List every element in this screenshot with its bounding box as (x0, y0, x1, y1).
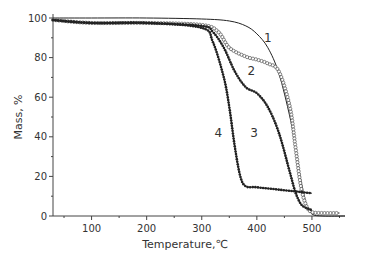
marker (290, 190, 293, 193)
marker (295, 194, 298, 197)
marker (135, 21, 138, 24)
marker (246, 87, 249, 90)
marker (293, 187, 296, 190)
marker (209, 28, 212, 31)
marker (272, 188, 275, 191)
marker (236, 160, 239, 163)
marker (240, 178, 243, 181)
marker (227, 56, 230, 59)
marker (264, 187, 267, 190)
marker (234, 70, 237, 73)
marker (228, 59, 231, 62)
marker (80, 21, 83, 24)
curve-label-1: 1 (264, 31, 272, 45)
marker (231, 127, 234, 130)
marker (187, 24, 190, 27)
x-axis-label: Temperature,℃ (141, 238, 228, 251)
marker (230, 63, 233, 66)
marker (268, 108, 271, 111)
marker (253, 90, 256, 93)
marker (288, 169, 291, 172)
marker (88, 22, 91, 25)
marker (242, 83, 245, 86)
marker (249, 186, 252, 189)
marker (255, 92, 258, 95)
curve-label-3: 3 (250, 126, 258, 140)
marker (222, 73, 225, 76)
marker (280, 139, 283, 142)
marker (169, 23, 172, 26)
marker (257, 93, 260, 96)
marker (254, 186, 257, 189)
marker (179, 24, 182, 27)
marker (226, 96, 229, 99)
marker (117, 22, 120, 25)
marker (132, 21, 135, 24)
marker (277, 129, 280, 132)
marker (59, 19, 62, 22)
marker (300, 204, 303, 207)
marker (281, 142, 284, 145)
marker (251, 186, 254, 189)
marker (299, 201, 302, 204)
marker (335, 211, 338, 214)
marker (211, 30, 214, 33)
marker (192, 25, 195, 28)
marker (236, 158, 239, 161)
marker (230, 122, 233, 125)
marker (264, 101, 267, 104)
marker (302, 205, 305, 208)
marker (205, 25, 208, 28)
marker (237, 166, 240, 169)
marker (233, 145, 236, 148)
marker (235, 155, 238, 158)
y-tick-label: 40 (34, 131, 47, 142)
marker (218, 58, 221, 61)
marker (285, 159, 288, 162)
marker (242, 183, 245, 186)
y-tick-label: 60 (34, 92, 47, 103)
marker (214, 46, 217, 49)
marker (273, 120, 276, 123)
marker (290, 177, 293, 180)
marker (204, 28, 207, 31)
tga-chart: 100200300400500020406080100 Temperature,… (0, 0, 367, 268)
marker (283, 152, 286, 155)
x-tick-label: 100 (82, 223, 101, 234)
marker (222, 76, 225, 79)
marker (221, 44, 224, 47)
marker (275, 124, 278, 127)
marker (158, 22, 161, 25)
marker (224, 49, 227, 52)
marker (295, 190, 298, 193)
marker (227, 101, 230, 104)
marker (221, 71, 224, 74)
marker (85, 21, 88, 24)
marker (239, 173, 242, 176)
marker (214, 34, 217, 37)
marker (293, 190, 296, 193)
curve-label-4: 4 (214, 126, 222, 140)
marker (104, 22, 107, 25)
marker (219, 63, 222, 66)
marker (236, 75, 239, 78)
marker (239, 79, 242, 82)
marker (246, 186, 249, 189)
marker (176, 23, 179, 26)
marker (224, 83, 227, 86)
marker (163, 22, 166, 25)
marker (220, 66, 223, 69)
y-tick-label: 100 (28, 13, 47, 24)
marker (218, 61, 221, 64)
y-tick-label: 80 (34, 52, 47, 63)
marker (219, 40, 222, 43)
curves (51, 18, 345, 216)
marker (276, 127, 279, 130)
marker (148, 22, 151, 25)
marker (235, 73, 238, 76)
curve-label-2: 2 (248, 64, 256, 78)
axes: 100200300400500020406080100 (28, 13, 345, 235)
marker (143, 22, 146, 25)
marker (239, 176, 242, 179)
marker (272, 117, 275, 120)
